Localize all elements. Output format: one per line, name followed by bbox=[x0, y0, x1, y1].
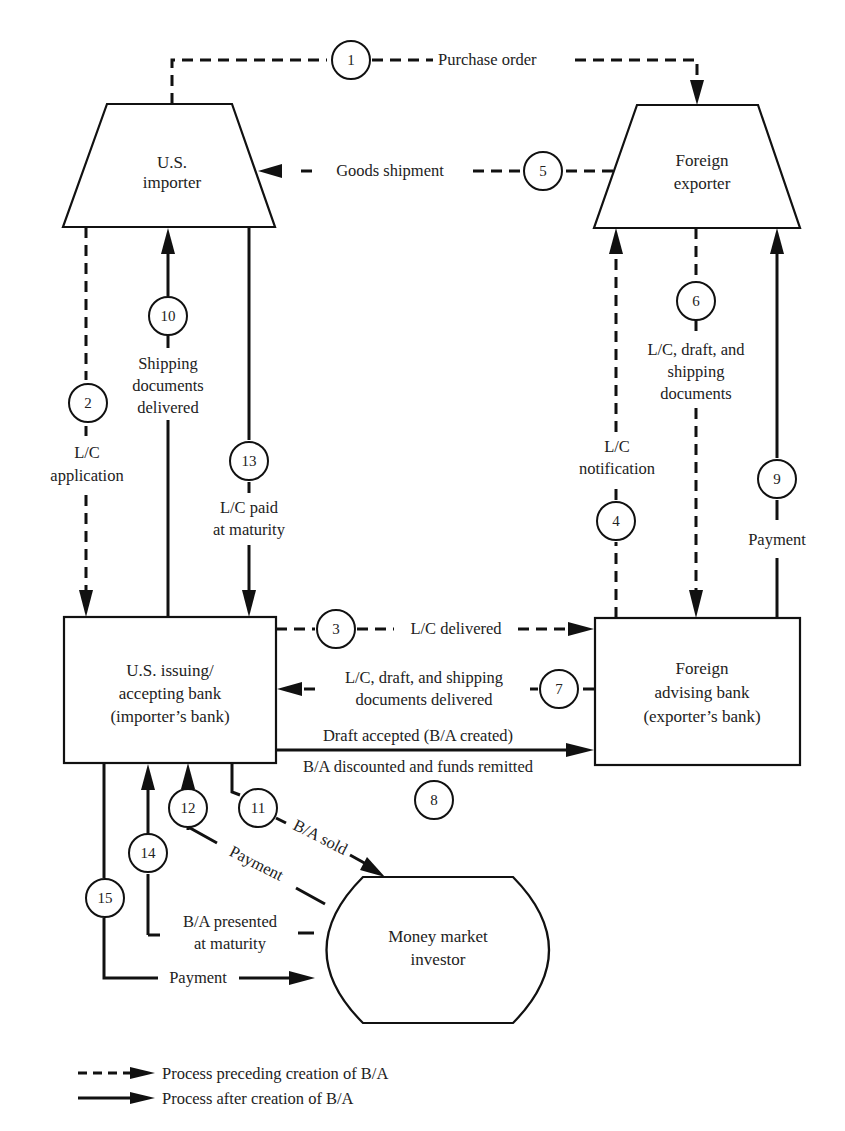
step-label-10-line-2: documents bbox=[132, 376, 204, 395]
step-label-11: B/A sold bbox=[290, 815, 351, 859]
arrowhead-right-icon bbox=[289, 971, 315, 985]
flow-step-14-ba-presented: 14 B/A presented at maturity bbox=[129, 764, 314, 953]
flow-step-7-documents-delivered: 7 L/C, draft, and shipping documents del… bbox=[277, 668, 594, 709]
boa-flow-diagram: U.S. importer Foreign exporter U.S. issu… bbox=[0, 0, 845, 1131]
step-number-14: 14 bbox=[141, 845, 157, 861]
step-label-7-line-1: L/C, draft, and shipping bbox=[345, 668, 503, 687]
step-number-5: 5 bbox=[539, 163, 547, 179]
step-label-14-line-1: B/A presented bbox=[183, 912, 278, 931]
step-label-6-line-2: shipping bbox=[668, 362, 725, 381]
legend-label-solid: Process after creation of B/A bbox=[162, 1089, 354, 1108]
step-number-12: 12 bbox=[181, 800, 196, 816]
arrowhead-left-icon bbox=[258, 164, 282, 178]
node-us-importer: U.S. importer bbox=[63, 104, 275, 227]
step-number-10: 10 bbox=[161, 308, 176, 324]
arrowhead-down-right-icon bbox=[360, 857, 385, 877]
step-label-4-line-1: L/C bbox=[604, 437, 630, 456]
flow-step-10-shipping-documents-delivered: 10 Shipping documents delivered bbox=[132, 228, 204, 617]
step-label-14-line-2: at maturity bbox=[194, 934, 267, 953]
step-label-8-line-2: B/A discounted and funds remitted bbox=[303, 757, 534, 776]
arrowhead-down-icon bbox=[79, 590, 93, 617]
flow-step-4-lc-notification: 4 L/C notification bbox=[579, 228, 655, 618]
step-number-7: 7 bbox=[555, 681, 563, 697]
step-label-15: Payment bbox=[169, 968, 227, 987]
node-foreign-exporter-label-1: Foreign bbox=[676, 151, 729, 170]
flow-step-3-lc-delivered: 3 L/C delivered bbox=[276, 610, 594, 648]
step-label-8-line-1: Draft accepted (B/A created) bbox=[323, 726, 513, 745]
node-us-bank-label-1: U.S. issuing/ bbox=[126, 661, 214, 680]
arrowhead-right-icon bbox=[566, 743, 594, 757]
arrowhead-left-icon bbox=[277, 682, 302, 696]
step-label-10-line-3: delivered bbox=[137, 398, 199, 417]
node-us-bank-label-3: (importer’s bank) bbox=[110, 707, 229, 726]
node-us-importer-label-2: importer bbox=[143, 173, 202, 192]
step-number-13: 13 bbox=[242, 453, 257, 469]
arrowhead-up-icon bbox=[161, 228, 175, 254]
node-foreign-bank-label-3: (exporter’s bank) bbox=[643, 707, 760, 726]
step-label-7-line-2: documents delivered bbox=[356, 690, 494, 709]
step-number-4: 4 bbox=[612, 513, 620, 529]
arrowhead-down-icon bbox=[242, 590, 256, 617]
legend-label-dashed: Process preceding creation of B/A bbox=[162, 1064, 388, 1083]
step-label-6-line-3: documents bbox=[660, 384, 732, 403]
solid-arrow-icon bbox=[130, 1092, 155, 1104]
node-foreign-bank-label-1: Foreign bbox=[676, 659, 729, 678]
arrowhead-up-icon bbox=[181, 763, 195, 789]
arrowhead-down-icon bbox=[690, 80, 704, 105]
arrowhead-right-icon bbox=[568, 622, 594, 636]
flow-step-2-lc-application: 2 L/C application bbox=[50, 227, 123, 617]
step-number-6: 6 bbox=[692, 293, 700, 309]
step-number-8: 8 bbox=[430, 792, 438, 808]
flow-step-6-lc-draft-shipping-documents: 6 L/C, draft, and shipping documents bbox=[647, 228, 745, 618]
legend-item-solid: Process after creation of B/A bbox=[78, 1089, 354, 1108]
step-label-12: Payment bbox=[226, 842, 286, 885]
step-label-3: L/C delivered bbox=[410, 619, 502, 638]
arrowhead-up-icon bbox=[770, 228, 784, 254]
node-foreign-exporter-label-2: exporter bbox=[674, 174, 731, 193]
node-us-bank-label-2: accepting bank bbox=[119, 684, 222, 703]
node-us-importer-label-1: U.S. bbox=[157, 153, 187, 172]
arrowhead-down-icon bbox=[689, 590, 703, 618]
node-investor-label-1: Money market bbox=[388, 927, 488, 946]
node-foreign-advising-bank: Foreign advising bank (exporter’s bank) bbox=[595, 618, 800, 765]
step-label-13-line-2: at maturity bbox=[213, 520, 286, 539]
arrowhead-up-icon bbox=[609, 228, 623, 254]
step-number-1: 1 bbox=[347, 52, 355, 68]
node-foreign-exporter: Foreign exporter bbox=[594, 105, 800, 228]
node-money-market-investor: Money market investor bbox=[327, 877, 550, 1023]
step-label-6-line-1: L/C, draft, and bbox=[647, 340, 745, 359]
step-number-3: 3 bbox=[332, 621, 340, 637]
flow-step-1-purchase-order: 1 Purchase order bbox=[172, 41, 704, 105]
step-number-9: 9 bbox=[773, 471, 781, 487]
legend: Process preceding creation of B/A Proces… bbox=[78, 1064, 388, 1108]
step-label-5: Goods shipment bbox=[336, 161, 444, 180]
step-label-2-line-2: application bbox=[50, 466, 123, 485]
flow-step-5-goods-shipment: 5 Goods shipment bbox=[258, 152, 613, 190]
arrowhead-up-icon bbox=[141, 764, 155, 790]
step-number-15: 15 bbox=[98, 890, 113, 906]
legend-item-dashed: Process preceding creation of B/A bbox=[78, 1064, 388, 1083]
dashed-arrow-icon bbox=[130, 1067, 155, 1079]
node-foreign-bank-label-2: advising bank bbox=[655, 683, 750, 702]
step-label-13-line-1: L/C paid bbox=[220, 498, 279, 517]
step-label-10-line-1: Shipping bbox=[138, 354, 198, 373]
node-us-issuing-bank: U.S. issuing/ accepting bank (importer’s… bbox=[64, 617, 276, 763]
flow-step-9-payment: 9 Payment bbox=[748, 228, 806, 618]
step-label-2-line-1: L/C bbox=[74, 443, 100, 462]
flow-step-8-draft-accepted: Draft accepted (B/A created) B/A discoun… bbox=[276, 726, 594, 819]
flow-step-13-lc-paid-at-maturity: 13 L/C paid at maturity bbox=[213, 227, 286, 617]
step-label-4-line-2: notification bbox=[579, 459, 655, 478]
node-investor-label-2: investor bbox=[411, 950, 466, 969]
step-label-1: Purchase order bbox=[438, 50, 537, 69]
step-number-11: 11 bbox=[251, 800, 265, 816]
step-number-2: 2 bbox=[84, 395, 92, 411]
step-label-9: Payment bbox=[748, 530, 806, 549]
